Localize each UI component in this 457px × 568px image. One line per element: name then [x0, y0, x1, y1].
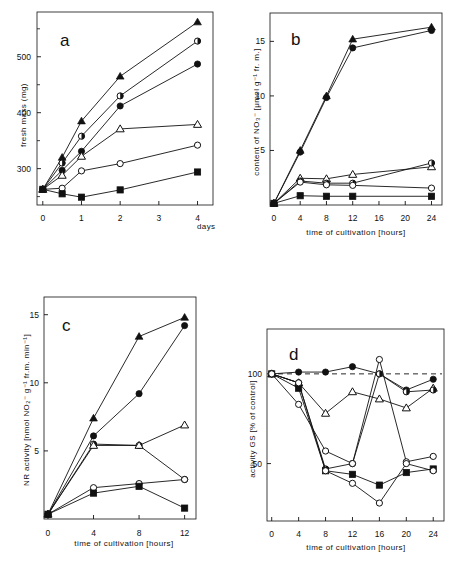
data-point	[271, 200, 277, 206]
data-point	[322, 448, 328, 454]
data-point	[269, 371, 275, 377]
panel-label-b: b	[291, 30, 300, 49]
x-axis-label: time of cultivation [hours]	[306, 228, 405, 237]
data-point	[376, 356, 382, 362]
y-tick-label: 5	[34, 446, 39, 456]
panel-d-svg: 0481216202450100 d activity GS [% of con…	[229, 284, 457, 568]
y-axis-label: content of NO₃⁻ [μmol g⁻¹ fr. m.]	[252, 48, 261, 175]
data-point	[323, 193, 329, 199]
panel-a-plot-area: 01234300400500 a fresh mass (mg) days	[17, 12, 216, 231]
x-tick-label: 2	[118, 213, 123, 223]
x-tick-label: 8	[324, 213, 329, 223]
x-tick-label: 0	[46, 528, 51, 538]
data-point	[376, 500, 382, 506]
data-point	[182, 505, 188, 511]
data-point	[297, 149, 303, 155]
data-point	[194, 169, 200, 175]
panel-b-svg: 0481216202451015 b content of NO₃⁻ [μmol…	[229, 0, 457, 284]
figure-four-panel-plots: 01234300400500 a fresh mass (mg) days 04…	[0, 0, 457, 568]
data-point	[322, 369, 328, 375]
data-point	[45, 511, 51, 517]
data-point	[136, 483, 142, 489]
x-tick-label: 16	[374, 213, 384, 223]
x-tick-label: 12	[348, 213, 358, 223]
data-point	[136, 391, 142, 397]
data-point	[117, 187, 123, 193]
y-axis-label: fresh mass (mg)	[19, 83, 28, 147]
y-tick-label: 5	[260, 145, 265, 155]
data-point	[428, 193, 434, 199]
panel-c-svg: 0481251015 c NR activity [nmol NO₂⁻ g⁻¹ …	[0, 284, 229, 568]
panel-label-c: c	[62, 316, 71, 335]
x-tick-label: 8	[137, 528, 142, 538]
data-point	[78, 168, 84, 174]
data-point	[117, 103, 123, 109]
data-point	[323, 182, 329, 188]
x-tick-label: 3	[156, 213, 161, 223]
data-point	[430, 453, 436, 459]
data-point	[349, 471, 355, 477]
x-tick-label: 24	[427, 213, 437, 223]
panel-a-svg: 01234300400500 a fresh mass (mg) days	[0, 0, 229, 284]
data-point	[376, 482, 382, 488]
data-point	[40, 186, 46, 192]
data-point	[182, 323, 188, 329]
data-point	[297, 179, 303, 185]
x-tick-label: 8	[323, 529, 328, 539]
y-tick-label: 500	[17, 52, 31, 62]
x-tick-label: 12	[348, 529, 358, 539]
data-point	[296, 369, 302, 375]
x-tick-label: 0	[272, 213, 277, 223]
panel-label-d: d	[289, 345, 298, 364]
panel-c: 0481251015 c NR activity [nmol NO₂⁻ g⁻¹ …	[0, 284, 229, 568]
x-tick-label: 0	[269, 529, 274, 539]
data-point	[297, 193, 303, 199]
data-point	[403, 469, 409, 475]
data-point	[182, 476, 188, 482]
x-tick-label: 24	[428, 529, 438, 539]
panel-d-plot-area: 0481216202450100 d activity GS [% of con…	[248, 329, 444, 552]
x-tick-label: 16	[375, 529, 385, 539]
data-point	[296, 380, 302, 386]
data-point	[117, 161, 123, 167]
x-tick-label: 12	[180, 528, 190, 538]
x-tick-label: 1	[79, 213, 84, 223]
panel-c-plot-area: 0481251015 c NR activity [nmol NO₂⁻ g⁻¹ …	[22, 297, 196, 548]
data-point	[90, 490, 96, 496]
x-axis-label: time of cultivation [hours]	[74, 539, 173, 548]
data-point	[350, 193, 356, 199]
data-point	[59, 191, 65, 197]
y-tick-label: 15	[256, 36, 266, 46]
x-tick-label: 4	[91, 528, 96, 538]
data-point	[428, 185, 434, 191]
x-tick-label: 20	[401, 213, 411, 223]
y-tick-label: 300	[17, 164, 31, 174]
data-point	[428, 27, 434, 33]
data-point	[430, 468, 436, 474]
y-axis-label: NR activity [nmol NO₂⁻ g⁻¹ fr.m. min⁻¹]	[22, 334, 31, 486]
data-point	[194, 61, 200, 67]
y-tick-label: 100	[248, 369, 262, 379]
x-axis-label: days	[197, 222, 216, 231]
data-point	[322, 468, 328, 474]
data-point	[349, 460, 355, 466]
panel-b-plot-area: 0481216202451015 b content of NO₃⁻ [μmol…	[252, 13, 442, 237]
data-point	[430, 376, 436, 382]
data-point	[350, 45, 356, 51]
x-tick-label: 4	[298, 213, 303, 223]
data-point	[296, 401, 302, 407]
data-point	[194, 142, 200, 148]
panel-b: 0481216202451015 b content of NO₃⁻ [μmol…	[229, 0, 457, 284]
x-axis-label: time of cultivation [hours]	[306, 543, 405, 552]
data-point	[403, 460, 409, 466]
panel-a: 01234300400500 a fresh mass (mg) days	[0, 0, 229, 284]
data-point	[349, 364, 355, 370]
panel-label-a: a	[60, 31, 70, 50]
data-point	[90, 433, 96, 439]
y-axis-label: activity GS [% of control]	[248, 380, 257, 478]
y-tick-label: 15	[30, 310, 40, 320]
x-tick-label: 4	[296, 529, 301, 539]
data-point	[78, 194, 84, 200]
data-point	[350, 182, 356, 188]
panel-d: 0481216202450100 d activity GS [% of con…	[229, 284, 457, 568]
